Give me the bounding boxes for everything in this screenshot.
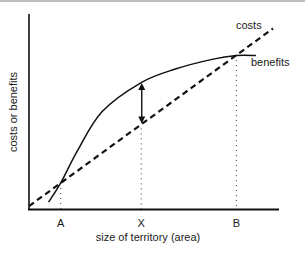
benefits-curve bbox=[49, 55, 256, 202]
x-axis-label: size of territory (area) bbox=[96, 231, 201, 243]
costs-line bbox=[29, 29, 273, 207]
y-axis-label: costs or benefits bbox=[7, 71, 19, 152]
series-layer bbox=[29, 29, 273, 207]
series-labels: costsbenefits bbox=[236, 19, 290, 68]
x-tick-x: X bbox=[138, 217, 146, 229]
x-tick-b: B bbox=[233, 217, 240, 229]
cost-benefit-diagram: AXB costsbenefits size of territory (are… bbox=[0, 0, 305, 256]
x-tick-labels: AXB bbox=[57, 217, 240, 229]
net-benefit-arrow bbox=[138, 83, 145, 123]
x-tick-a: A bbox=[57, 217, 65, 229]
costs-label: costs bbox=[236, 19, 262, 31]
benefits-label: benefits bbox=[251, 56, 290, 68]
